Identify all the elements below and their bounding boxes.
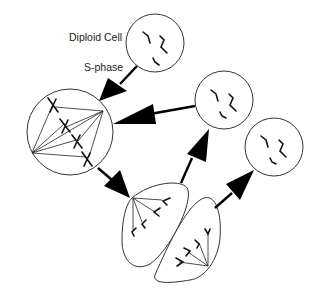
- daughter-cell-2: [245, 118, 303, 176]
- diploid-cell-label: Diploid Cell: [69, 31, 122, 43]
- arrow-to-daughter-1: [181, 129, 209, 183]
- anaphase-telophase-cell: [122, 183, 220, 282]
- arrow-return-to-metaphase: [113, 104, 195, 124]
- diploid-cell: [126, 14, 184, 72]
- mitosis-diagram: Diploid Cell S-phase: [0, 0, 317, 296]
- metaphase-cell: [27, 89, 113, 175]
- arrow-to-daughter-2: [215, 170, 254, 208]
- arrow-to-anaphase: [98, 168, 130, 198]
- s-phase-label: S-phase: [84, 61, 123, 73]
- daughter-cell-1: [195, 71, 253, 129]
